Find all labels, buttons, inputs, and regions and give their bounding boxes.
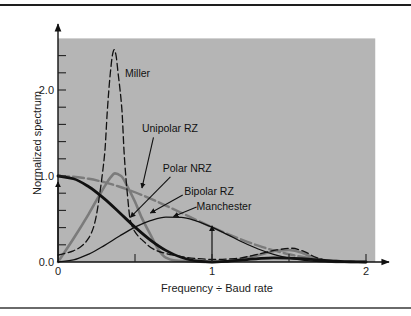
x-tick-label: 0 — [55, 265, 61, 277]
x-tick-label: 1 — [209, 265, 215, 277]
annotation-label-bipolar-rz: Bipolar RZ — [184, 185, 234, 197]
x-axis-title: Frequency ÷ Baud rate — [161, 282, 273, 294]
bottom-rule — [0, 307, 411, 309]
annotation-label-unipolar-rz: Unipolar RZ — [142, 122, 199, 134]
spectrum-chart: 0.01.02.0012 MillerUnipolar RZPolar NRZB… — [0, 0, 411, 316]
x-tick-label: 2 — [363, 265, 369, 277]
y-tick-label: 0.0 — [39, 256, 54, 268]
annotation-label-polar-nrz: Polar NRZ — [163, 162, 213, 174]
y-axis-title: Normalized spectrum — [31, 91, 43, 195]
annotation-label-miller: Miller — [125, 67, 151, 79]
annotation-label-manchester: Manchester — [197, 200, 252, 212]
